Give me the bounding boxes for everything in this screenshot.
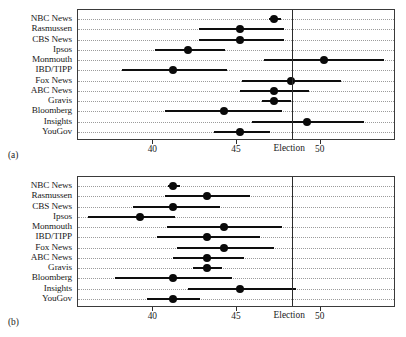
x-axis-tick-label: 50 — [315, 311, 324, 322]
category-label: IBD/TIPP — [36, 66, 72, 75]
panel-a-x-axis: 404550Election — [77, 140, 395, 162]
gridline-row — [78, 207, 394, 208]
category-label: YouGov — [42, 294, 72, 303]
data-point-marker — [169, 66, 177, 74]
category-label: Monmouth — [32, 56, 72, 65]
data-point-marker — [169, 295, 177, 303]
panel-b-plot-area — [77, 176, 395, 307]
category-label: NBC News — [31, 15, 72, 24]
x-axis-tick-label: 40 — [148, 144, 157, 155]
gridline-row — [78, 186, 394, 187]
x-axis-tick-label: 45 — [231, 144, 240, 155]
data-point-marker — [184, 46, 192, 54]
election-reference-line — [292, 10, 293, 139]
data-point-marker — [303, 118, 311, 126]
category-label: Rasmussen — [32, 192, 72, 201]
category-label: Insights — [44, 284, 72, 293]
data-point-marker — [203, 233, 211, 241]
category-label: Gravis — [48, 97, 72, 106]
category-label: Rasmussen — [32, 25, 72, 34]
category-label: Fox News — [35, 243, 72, 252]
data-point-marker — [169, 203, 177, 211]
category-label: NBC News — [31, 182, 72, 191]
data-point-marker — [236, 285, 244, 293]
data-point-marker — [270, 97, 278, 105]
category-label: Fox News — [35, 76, 72, 85]
category-label: IBD/TIPP — [36, 233, 72, 242]
category-label: Bloomberg — [32, 107, 72, 116]
data-point-marker — [236, 128, 244, 136]
category-label: ABC News — [31, 86, 72, 95]
category-label: Ipsos — [53, 212, 72, 221]
figure-root: NBC NewsRasmussenCBS NewsIpsosMonmouthIB… — [0, 0, 406, 337]
data-point-marker — [320, 56, 328, 64]
data-point-marker — [169, 182, 177, 190]
data-point-marker — [236, 25, 244, 33]
data-point-marker — [169, 274, 177, 282]
x-axis-tick-label: 45 — [231, 311, 240, 322]
panel-a: NBC NewsRasmussenCBS NewsIpsosMonmouthIB… — [0, 0, 406, 168]
category-label: Insights — [44, 117, 72, 126]
panel-b: NBC NewsRasmussenCBS NewsIpsosMonmouthIB… — [0, 168, 406, 337]
category-label: CBS News — [32, 202, 72, 211]
election-axis-label: Election — [274, 310, 305, 321]
category-label: YouGov — [42, 127, 72, 136]
election-reference-line — [292, 177, 293, 306]
gridline-row — [78, 268, 394, 269]
confidence-interval-bar — [88, 216, 175, 218]
data-point-marker — [136, 213, 144, 221]
data-point-marker — [270, 87, 278, 95]
panel-a-plot-area — [77, 9, 395, 140]
gridline-row — [78, 81, 394, 82]
data-point-marker — [203, 254, 211, 262]
category-label: CBS News — [32, 35, 72, 44]
data-point-marker — [236, 36, 244, 44]
category-label: Monmouth — [32, 223, 72, 232]
data-point-marker — [203, 264, 211, 272]
data-point-marker — [270, 15, 278, 23]
gridline-row — [78, 19, 394, 20]
panel-b-caption: (b) — [8, 317, 19, 328]
data-point-marker — [203, 192, 211, 200]
data-point-marker — [220, 244, 228, 252]
x-axis-tick-label: 50 — [315, 144, 324, 155]
category-label: ABC News — [31, 253, 72, 262]
data-point-marker — [287, 77, 295, 85]
data-point-marker — [220, 107, 228, 115]
gridline-row — [78, 91, 394, 92]
data-point-marker — [220, 223, 228, 231]
category-label: Gravis — [48, 264, 72, 273]
panel-a-caption: (a) — [8, 150, 18, 161]
gridline-row — [78, 299, 394, 300]
election-axis-label: Election — [274, 143, 305, 154]
panel-b-x-axis: 404550Election — [77, 307, 395, 329]
gridline-row — [78, 101, 394, 102]
x-axis-tick-label: 40 — [148, 311, 157, 322]
category-label: Ipsos — [53, 45, 72, 54]
category-label: Bloomberg — [32, 274, 72, 283]
gridline-row — [78, 50, 394, 51]
